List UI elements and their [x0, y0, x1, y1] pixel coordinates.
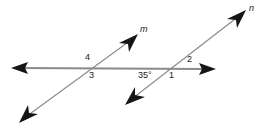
- angle-label-3: 3: [89, 71, 94, 80]
- geometry-figure-svg: [0, 0, 263, 137]
- horizontal-line: [16, 68, 206, 69]
- line-n-lower-arrowhead: [125, 87, 145, 105]
- line-m-lower-arrowhead: [19, 105, 38, 123]
- transversal-line-n: [133, 16, 239, 98]
- angle-measure-35-degrees: 35°: [138, 71, 152, 80]
- transversal-line-m: [27, 40, 131, 116]
- line-label-m: m: [140, 25, 148, 34]
- angle-label-1: 1: [169, 71, 174, 80]
- line-label-n: n: [249, 4, 254, 13]
- line-m-upper-arrowhead: [119, 34, 138, 52]
- line-n-upper-arrowhead: [227, 10, 246, 28]
- angle-label-2: 2: [187, 55, 192, 64]
- geometry-diagram: m n 4 3 2 1 35°: [0, 0, 263, 137]
- angle-label-4: 4: [85, 53, 90, 62]
